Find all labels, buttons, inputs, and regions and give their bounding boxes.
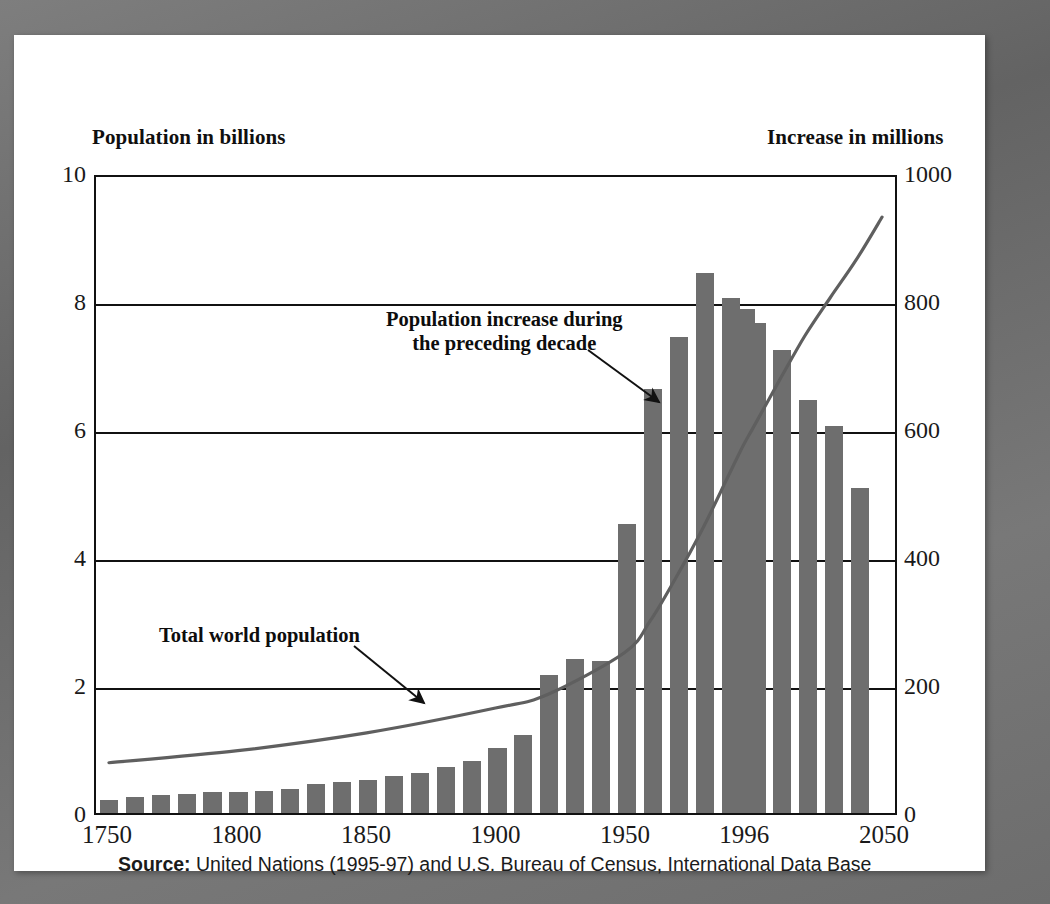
x-tick-1900: 1900: [471, 821, 521, 849]
source-body: United Nations (1995-97) and U.S. Bureau…: [191, 853, 872, 875]
left-axis-title: Population in billions: [92, 125, 286, 150]
photo-frame-background: Population in billions Increase in milli…: [0, 0, 1050, 904]
left-tick-0: 0: [26, 802, 86, 826]
x-tick-1750: 1750: [82, 821, 132, 849]
annotation-bar-series: Population increase during the preceding…: [386, 307, 623, 355]
source-label: Source:: [118, 853, 191, 875]
right-tick-400: 400: [904, 546, 940, 570]
plot-area: [94, 175, 897, 815]
annotation-curve-series: Total world population: [159, 623, 360, 647]
right-tick-600: 600: [904, 418, 940, 442]
right-tick-1000: 1000: [904, 162, 952, 186]
left-tick-2: 2: [26, 674, 86, 698]
right-tick-800: 800: [904, 290, 940, 314]
right-axis-title: Increase in millions: [767, 125, 944, 150]
left-tick-6: 6: [26, 418, 86, 442]
x-tick-1850: 1850: [341, 821, 391, 849]
source-note: Source: United Nations (1995-97) and U.S…: [118, 853, 958, 876]
x-tick-1800: 1800: [211, 821, 261, 849]
x-tick-1950: 1950: [600, 821, 650, 849]
x-tick-1996: 1996: [719, 821, 769, 849]
left-tick-8: 8: [26, 290, 86, 314]
left-tick-10: 10: [26, 162, 86, 186]
x-tick-2050: 2050: [859, 821, 909, 849]
chart-page: Population in billions Increase in milli…: [14, 35, 985, 871]
left-tick-4: 4: [26, 546, 86, 570]
population-curve: [96, 177, 895, 813]
right-tick-200: 200: [904, 674, 940, 698]
